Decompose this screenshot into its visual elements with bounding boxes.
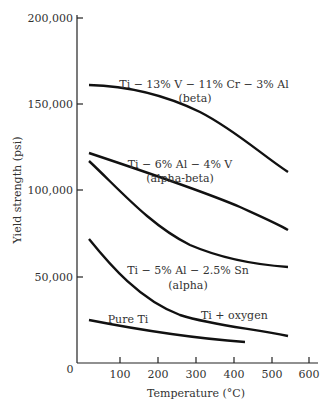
x-tick-400: 400: [224, 368, 245, 381]
x-axis-label: Temperature (°C): [147, 387, 245, 400]
x-tick-200: 200: [148, 368, 169, 381]
x-ticks: [120, 357, 309, 363]
y-tick-100000: 100,000: [28, 184, 74, 197]
yield-strength-chart: 200,000 150,000 100,000 50,000 0 100 200…: [0, 0, 334, 413]
y-axis-label: Yield strength (psi): [11, 137, 24, 245]
label-alpha-phase: (alpha): [168, 279, 207, 292]
x-tick-600: 600: [299, 368, 320, 381]
label-alpha-beta: Ti − 6% Al − 4% V: [128, 158, 234, 171]
x-tick-500: 500: [262, 368, 283, 381]
label-beta-phase: (beta): [178, 92, 211, 105]
label-beta: Ti − 13% V − 11% Cr − 3% Al: [119, 78, 289, 91]
y-tick-200000: 200,000: [28, 12, 74, 25]
x-tick-300: 300: [186, 368, 207, 381]
label-alpha-beta-phase: (alpha-beta): [146, 172, 214, 185]
label-alpha: Ti − 5% Al − 2.5% Sn: [127, 264, 249, 277]
y-tick-0: 0: [67, 363, 74, 376]
y-tick-50000: 50,000: [35, 271, 74, 284]
y-ticks: [77, 18, 83, 277]
label-ti-oxygen: Ti + oxygen: [201, 309, 268, 322]
label-pure-ti: Pure Ti: [108, 313, 149, 326]
x-tick-100: 100: [110, 368, 131, 381]
y-tick-150000: 150,000: [28, 98, 74, 111]
